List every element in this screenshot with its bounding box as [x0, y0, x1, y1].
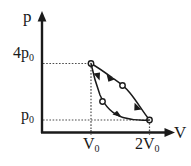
curve-lower-path — [91, 64, 150, 121]
x-axis-label: V — [174, 124, 186, 141]
y-tick-label-p0-sub: 0 — [29, 114, 34, 125]
node-point-lower-mid — [100, 99, 105, 104]
y-axis-label: p — [23, 8, 32, 25]
x-tick-label-V0-sub: 0 — [95, 143, 100, 154]
curve-lower-line — [91, 64, 150, 121]
x-tick-label-V0: V0 — [83, 136, 100, 154]
y-tick-label-4p0-main: 4p — [13, 44, 29, 61]
curve-lower-arrow-2 — [113, 111, 122, 118]
curve-upper-path — [88, 61, 152, 123]
x-tick-label-2V0: 2V0 — [135, 136, 160, 154]
pv-diagram-figure: p V 4p0 p0 V0 2V0 — [0, 0, 191, 166]
x-tick-label-2V0-sub: 0 — [155, 143, 160, 154]
y-tick-label-p0: p0 — [21, 107, 34, 125]
curve-upper-line — [91, 64, 150, 121]
y-tick-label-4p0-sub: 0 — [29, 52, 34, 63]
y-tick-label-4p0: 4p0 — [13, 45, 34, 63]
y-tick-label-p0-main: p — [21, 106, 29, 123]
y-axis-arrowhead — [38, 11, 47, 22]
x-tick-label-V0-main: V — [83, 135, 95, 152]
x-tick-label-2V0-main: 2V — [135, 135, 155, 152]
node-point-upper-mid — [120, 83, 125, 88]
